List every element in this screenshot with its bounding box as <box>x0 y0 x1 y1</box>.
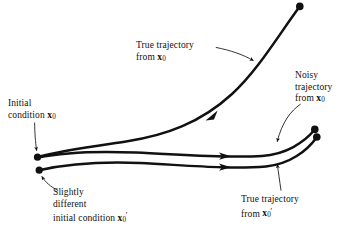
leader-lines <box>35 47 301 190</box>
label-slightly-different-prime: ′ <box>126 211 128 220</box>
label-true-trajectory-x0-prime-mark: ′ <box>270 207 272 216</box>
leader-initial-condition <box>35 123 37 151</box>
label-true-trajectory-x0-prefix: from <box>136 52 157 62</box>
perturbed-trajectory-endpoint-dot <box>313 133 321 141</box>
perturbed-initial-condition-dot <box>36 167 43 174</box>
label-true-trajectory-x0-prime-prefix: from <box>241 208 262 218</box>
label-slightly-different-initial-condition: Slightly different initial condition x0′ <box>53 187 128 226</box>
label-slightly-different-variable: x0′ <box>118 213 128 223</box>
label-initial-condition-variable: x0 <box>47 110 56 120</box>
leader-true-trajectory-x0 <box>216 47 254 60</box>
label-true-trajectory-x0-prime-line1: True trajectory <box>241 194 299 206</box>
label-initial-condition-subscript: 0 <box>52 113 56 121</box>
label-noisy-trajectory-line3: from x0 <box>295 93 332 107</box>
curve-true-trajectory-from-x0 <box>38 7 300 157</box>
label-noisy-trajectory-prefix: from <box>295 93 316 103</box>
curve-noisy-trajectory-from-x0 <box>38 130 315 158</box>
label-true-trajectory-x0-line1: True trajectory <box>136 40 194 52</box>
label-true-trajectory-x0-prime-line2: from x0′ <box>241 206 299 222</box>
label-initial-condition-prefix: condition <box>8 110 47 120</box>
label-true-trajectory-x0-prime-variable: x0′ <box>262 208 272 218</box>
trajectory-divergence-figure: Initial condition x0 True trajectory fro… <box>0 0 347 230</box>
label-noisy-trajectory-subscript: 0 <box>321 96 325 104</box>
label-noisy-trajectory-line2: trajectory <box>295 82 332 94</box>
label-noisy-trajectory-from-x0: Noisy trajectory from x0 <box>295 70 332 107</box>
label-initial-condition: Initial condition x0 <box>8 98 56 123</box>
label-noisy-trajectory-line1: Noisy <box>295 70 332 82</box>
label-true-trajectory-x0-variable: x0 <box>157 52 166 62</box>
label-true-trajectory-from-x0: True trajectory from x0 <box>136 40 194 65</box>
label-true-trajectory-x0-line2: from x0 <box>136 52 194 66</box>
label-slightly-different-line1: Slightly <box>53 187 128 199</box>
label-initial-condition-line1: Initial <box>8 98 56 110</box>
initial-condition-dot <box>34 154 41 161</box>
label-slightly-different-line2: different <box>53 199 128 211</box>
label-noisy-trajectory-variable: x0 <box>316 93 325 103</box>
noisy-trajectory-endpoint-dot <box>311 126 319 134</box>
label-true-trajectory-x0-subscript: 0 <box>162 55 166 63</box>
leader-true-trajectory-x0-prime <box>277 164 281 190</box>
label-initial-condition-line2: condition x0 <box>8 110 56 124</box>
label-slightly-different-prefix: initial condition <box>53 213 118 223</box>
label-true-trajectory-from-x0-prime: True trajectory from x0′ <box>241 194 299 222</box>
direction-arrowheads <box>206 110 231 170</box>
leader-noisy-trajectory <box>277 104 300 141</box>
label-slightly-different-line3: initial condition x0′ <box>53 210 128 226</box>
true-trajectory-endpoint-dot <box>296 3 304 11</box>
